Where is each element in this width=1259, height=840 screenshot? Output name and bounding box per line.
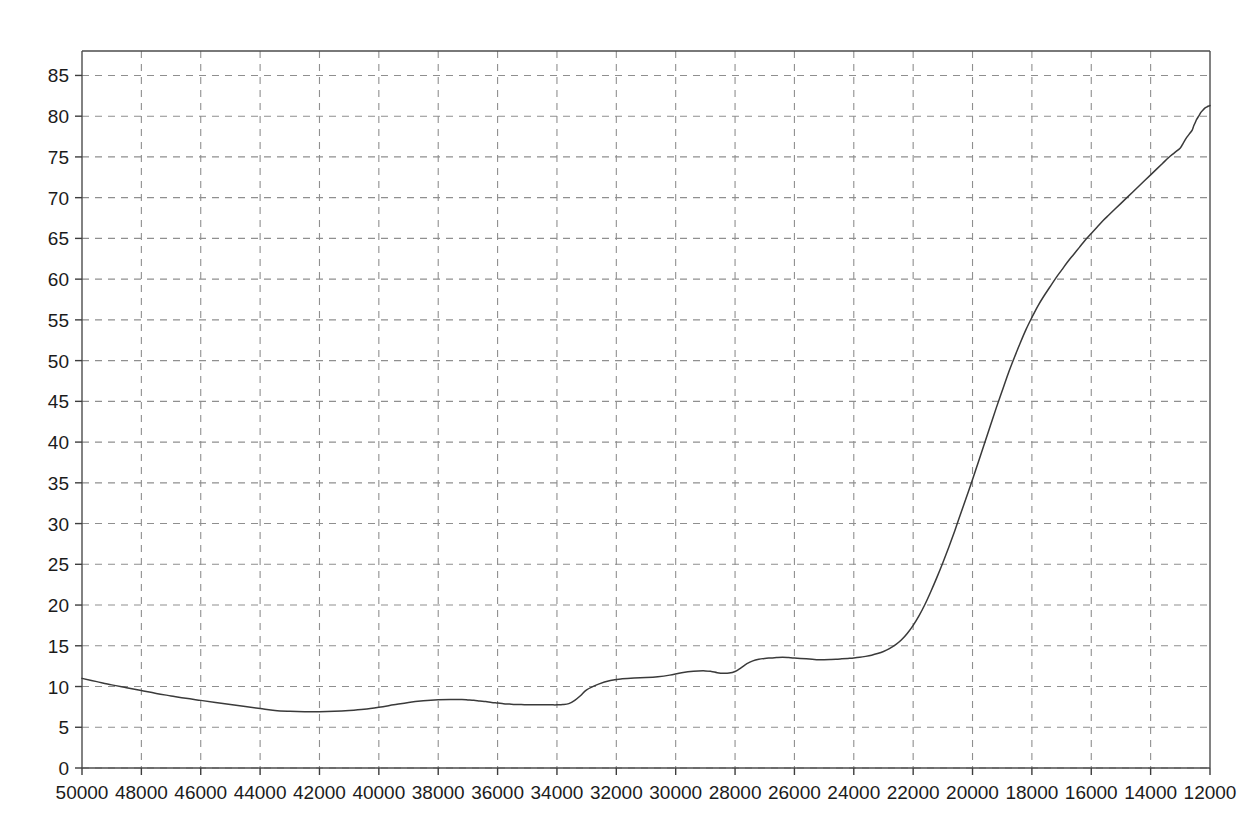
x-tick-label: 32000: [590, 782, 643, 803]
y-tick-label: 35: [48, 473, 69, 494]
y-tick-label: 0: [58, 758, 69, 779]
x-tick-label: 28000: [709, 782, 762, 803]
x-tick-label: 40000: [352, 782, 405, 803]
y-tick-label: 80: [48, 106, 69, 127]
x-tick-label: 42000: [293, 782, 346, 803]
y-tick-label: 10: [48, 677, 69, 698]
data-series-line: [82, 106, 1210, 712]
y-tick-label: 30: [48, 514, 69, 535]
x-tick-label: 14000: [1124, 782, 1177, 803]
x-tick-label: 44000: [234, 782, 287, 803]
y-tick-label: 45: [48, 391, 69, 412]
x-tick-label: 34000: [531, 782, 584, 803]
y-tick-label: 85: [48, 65, 69, 86]
x-tick-label: 48000: [115, 782, 168, 803]
axis-lines: [82, 51, 1210, 768]
x-tick-label: 36000: [471, 782, 524, 803]
y-axis-tick-labels: 0510152025303540455055606570758085: [48, 65, 69, 779]
x-tick-label: 18000: [1005, 782, 1058, 803]
y-tick-label: 15: [48, 636, 69, 657]
y-tick-label: 70: [48, 188, 69, 209]
gridlines: [82, 51, 1210, 768]
y-tick-label: 25: [48, 554, 69, 575]
y-tick-label: 60: [48, 269, 69, 290]
x-tick-label: 22000: [887, 782, 940, 803]
y-tick-label: 65: [48, 228, 69, 249]
tick-marks: [75, 75, 1210, 775]
x-tick-label: 16000: [1065, 782, 1118, 803]
y-tick-label: 55: [48, 310, 69, 331]
y-tick-label: 50: [48, 351, 69, 372]
x-tick-label: 38000: [412, 782, 465, 803]
spectrum-line-chart: 0510152025303540455055606570758085 50000…: [0, 0, 1259, 840]
y-tick-label: 20: [48, 595, 69, 616]
y-tick-label: 40: [48, 432, 69, 453]
chart-container: 0510152025303540455055606570758085 50000…: [0, 0, 1259, 840]
x-axis-tick-labels: 5000048000460004400042000400003800036000…: [56, 782, 1237, 803]
x-tick-label: 46000: [174, 782, 227, 803]
data-series-layer: [82, 106, 1210, 712]
x-tick-label: 30000: [649, 782, 702, 803]
x-tick-label: 24000: [827, 782, 880, 803]
y-tick-label: 75: [48, 147, 69, 168]
x-tick-label: 12000: [1184, 782, 1237, 803]
x-tick-label: 50000: [56, 782, 109, 803]
y-tick-label: 5: [58, 717, 69, 738]
x-tick-label: 26000: [768, 782, 821, 803]
x-tick-label: 20000: [946, 782, 999, 803]
